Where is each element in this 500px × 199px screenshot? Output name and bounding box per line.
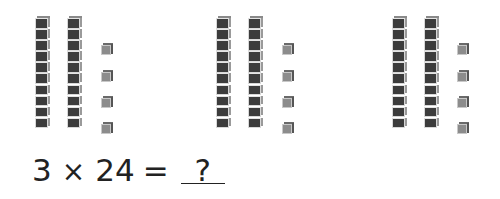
rod-cube (35, 40, 48, 51)
rod-cube (216, 107, 229, 118)
unit-cube (457, 124, 467, 134)
rod-cube (424, 107, 437, 118)
rod-cube (392, 18, 405, 29)
unit-cube (101, 45, 111, 55)
rod-cube (216, 118, 229, 129)
rod-cube (67, 51, 80, 62)
rod-cube (35, 62, 48, 73)
unit-cube (282, 72, 292, 82)
rod-cube (35, 73, 48, 84)
rod-cube (248, 51, 261, 62)
rod-cube (424, 85, 437, 96)
rod-cube (216, 85, 229, 96)
rod-cube (35, 51, 48, 62)
rod-cube (67, 18, 80, 29)
unit-cube (282, 124, 292, 134)
rod-cube (35, 118, 48, 129)
ten-rod (424, 18, 439, 129)
rod-cube (392, 96, 405, 107)
rod-cube (392, 118, 405, 129)
rod-cube (35, 85, 48, 96)
unit-cube (457, 98, 467, 108)
rod-cube (67, 85, 80, 96)
rod-cube (392, 40, 405, 51)
rod-cube (392, 62, 405, 73)
rod-cube (35, 29, 48, 40)
rod-cube (248, 18, 261, 29)
rod-cube (216, 62, 229, 73)
rod-cube (216, 96, 229, 107)
times-sign: × (62, 155, 85, 188)
rod-cube (67, 73, 80, 84)
rod-cube (392, 107, 405, 118)
rod-cube (248, 96, 261, 107)
unit-cube (457, 45, 467, 55)
rod-cube (35, 18, 48, 29)
rod-cube (216, 73, 229, 84)
rod-cube (424, 51, 437, 62)
equation: 3×24=? (32, 152, 225, 188)
rod-cube (424, 73, 437, 84)
rod-cube (216, 40, 229, 51)
rod-cube (248, 62, 261, 73)
rod-cube (424, 29, 437, 40)
rod-cube (248, 73, 261, 84)
rod-cube (424, 40, 437, 51)
rod-cube (67, 107, 80, 118)
factor-1: 3 (32, 152, 52, 188)
unit-cube (282, 98, 292, 108)
rod-cube (67, 40, 80, 51)
answer-blank: ? (181, 152, 225, 188)
rod-cube (67, 29, 80, 40)
unit-cube (101, 98, 111, 108)
rod-cube (392, 29, 405, 40)
unit-cube (101, 72, 111, 82)
rod-cube (424, 62, 437, 73)
rod-cube (216, 51, 229, 62)
rod-cube (248, 85, 261, 96)
ten-rod (67, 18, 82, 129)
rod-cube (248, 29, 261, 40)
ten-rod (392, 18, 407, 129)
rod-cube (248, 118, 261, 129)
rod-cube (392, 51, 405, 62)
rod-cube (67, 118, 80, 129)
ten-rod (248, 18, 263, 129)
rod-cube (248, 40, 261, 51)
rod-cube (392, 73, 405, 84)
equals-sign: = (143, 152, 169, 188)
rod-cube (424, 96, 437, 107)
factor-2: 24 (95, 152, 134, 188)
rod-cube (35, 107, 48, 118)
rod-cube (248, 107, 261, 118)
unit-cube (282, 45, 292, 55)
ten-rod (216, 18, 231, 129)
rod-cube (216, 29, 229, 40)
rod-cube (67, 96, 80, 107)
rod-cube (35, 96, 48, 107)
rod-cube (392, 85, 405, 96)
ten-rod (35, 18, 50, 129)
rod-cube (67, 62, 80, 73)
unit-cube (101, 124, 111, 134)
rod-cube (424, 18, 437, 29)
unit-cube (457, 72, 467, 82)
rod-cube (424, 118, 437, 129)
rod-cube (216, 18, 229, 29)
